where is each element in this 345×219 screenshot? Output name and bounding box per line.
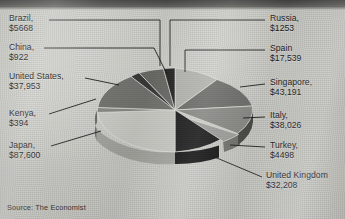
leader-united-states [85, 78, 119, 85]
leader-spain [185, 50, 265, 72]
callout-china-value: $922 [9, 52, 34, 62]
callout-japan-name: Japan, [9, 140, 35, 150]
callout-label-italy: Italy, $38,026 [270, 110, 301, 130]
callout-united-kingdom-name: United Kingdom [266, 170, 328, 180]
callout-china-name: China, [9, 42, 34, 52]
callout-spain-value: $17,539 [270, 53, 301, 63]
callout-label-brazil: Brazil, $5668 [9, 13, 33, 33]
callout-brazil-value: $5668 [9, 23, 33, 33]
callout-japan-value: $87,600 [9, 150, 40, 160]
callout-turkey-name: Turkey, [270, 140, 298, 150]
callout-turkey-value: $4498 [270, 150, 298, 160]
callout-russia-name: Russia, [270, 13, 299, 23]
callout-label-china: China, $922 [9, 42, 34, 62]
callout-kenya-value: $394 [9, 118, 36, 128]
callout-label-united-kingdom: United Kingdom $32,208 [266, 170, 328, 190]
leader-japan [51, 131, 101, 146]
leader-russia [170, 20, 265, 66]
callout-kenya-name: Kenya, [9, 108, 36, 118]
screenshot-root: Brazil, $5668 China, $922 United States,… [0, 0, 345, 219]
source-note: Source: The Economist [7, 203, 86, 212]
leader-brazil [49, 20, 160, 66]
callout-brazil-name: Brazil, [9, 13, 33, 23]
callout-russia-value: $1253 [270, 23, 299, 33]
callout-italy-name: Italy, [270, 110, 288, 120]
callout-singapore-value: $43,191 [270, 87, 312, 97]
callout-spain-name: Spain [270, 43, 292, 53]
callout-united-states-name: United States, [9, 71, 64, 81]
leader-united-kingdom [205, 153, 262, 177]
callout-label-russia: Russia, $1253 [270, 13, 299, 33]
callout-label-turkey: Turkey, $4498 [270, 140, 298, 160]
callout-label-japan: Japan, $87,600 [9, 140, 40, 160]
callout-label-spain: Spain $17,539 [270, 43, 301, 63]
callout-label-singapore: Singapore, $43,191 [270, 77, 312, 97]
callout-united-kingdom-value: $32,208 [266, 180, 328, 190]
leader-kenya [49, 99, 96, 114]
callout-united-states-value: $37,953 [9, 81, 64, 91]
pie-slices [97, 68, 252, 152]
callout-singapore-name: Singapore, [270, 77, 312, 87]
callout-label-united-states: United States, $37,953 [9, 71, 64, 91]
callout-italy-value: $38,026 [270, 120, 301, 130]
leader-singapore [240, 84, 265, 87]
callout-label-kenya: Kenya, $394 [9, 108, 36, 128]
